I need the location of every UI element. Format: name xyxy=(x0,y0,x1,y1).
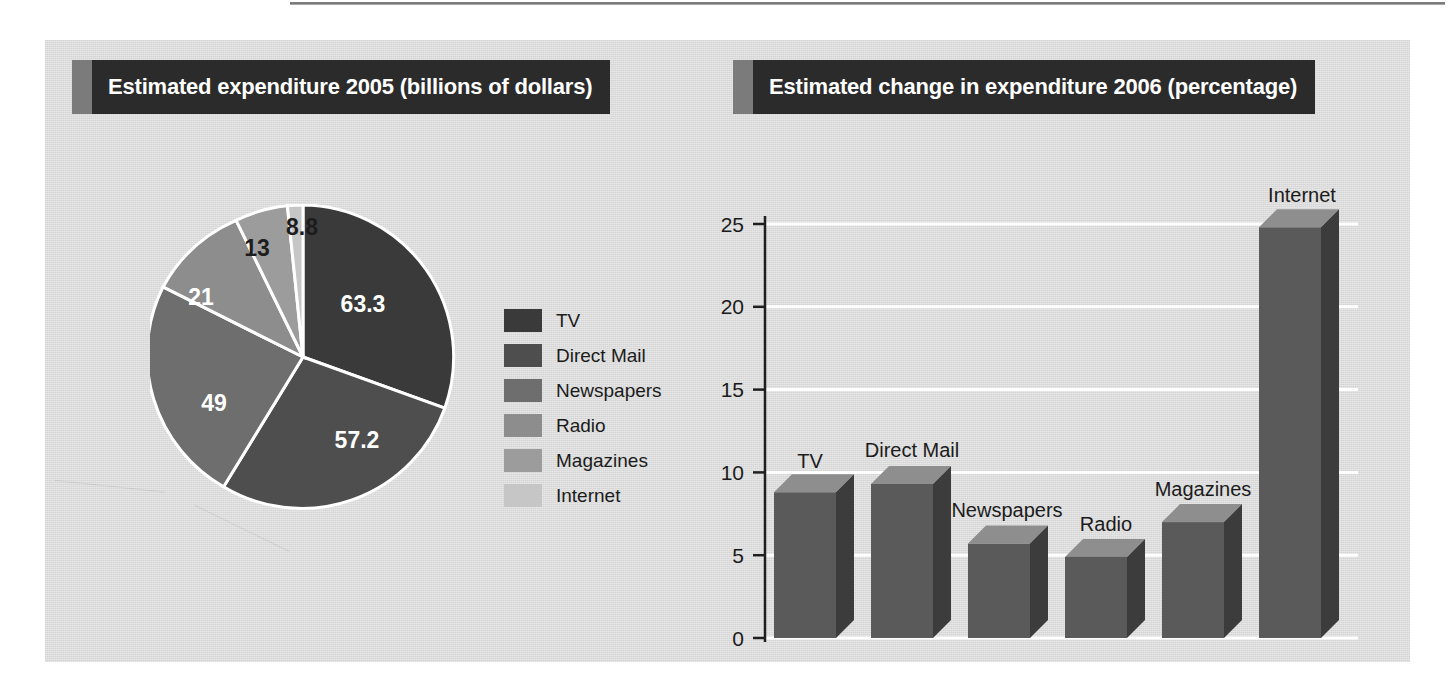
bar-newspapers-side xyxy=(1030,526,1048,638)
pie-chart-title: Estimated expenditure 2005 (billions of … xyxy=(108,74,592,100)
bar-direct-mail-front xyxy=(871,484,933,638)
legend-swatch-newspapers xyxy=(504,379,542,402)
paper-scratch-mark xyxy=(55,480,165,492)
legend-swatch-magazines xyxy=(504,449,542,472)
paper-scratch-mark-2 xyxy=(195,505,290,552)
pie-banner-tab xyxy=(72,60,92,114)
bar-tv[interactable]: TV xyxy=(774,450,854,638)
legend-label-direct-mail: Direct Mail xyxy=(556,345,646,367)
bar-magazines[interactable]: Magazines xyxy=(1155,478,1252,638)
pie-banner-body: Estimated expenditure 2005 (billions of … xyxy=(92,60,610,114)
pie-value-internet: 8.8 xyxy=(286,214,318,241)
top-divider-rule xyxy=(290,2,1445,5)
bar-label-magazines: Magazines xyxy=(1155,478,1252,500)
legend-swatch-internet xyxy=(504,484,542,507)
bar-label-radio: Radio xyxy=(1080,513,1132,535)
bar-internet-side xyxy=(1321,209,1339,638)
pie-value-direct-mail: 57.2 xyxy=(335,427,380,454)
legend-item-magazines[interactable]: Magazines xyxy=(504,443,704,478)
bar-label-internet: Internet xyxy=(1268,184,1336,206)
y-tick-label-0: 0 xyxy=(732,627,744,650)
y-tick-label-15: 15 xyxy=(721,378,744,401)
bar-label-direct-mail: Direct Mail xyxy=(865,439,959,461)
bar-banner-body: Estimated change in expenditure 2006 (pe… xyxy=(753,60,1315,114)
bar-direct-mail[interactable]: Direct Mail xyxy=(865,439,959,638)
legend-label-radio: Radio xyxy=(556,415,606,437)
bar-magazines-front xyxy=(1162,522,1224,638)
bar-radio-front xyxy=(1065,557,1127,638)
y-tick-label-10: 10 xyxy=(721,461,744,484)
legend-label-newspapers: Newspapers xyxy=(556,380,662,402)
bar-tv-front xyxy=(774,492,836,638)
legend-swatch-direct-mail xyxy=(504,344,542,367)
bar-banner-tab xyxy=(733,60,753,114)
pie-value-tv: 63.3 xyxy=(341,291,386,318)
bar-radio[interactable]: Radio xyxy=(1065,513,1145,638)
legend-swatch-tv xyxy=(504,309,542,332)
bar-chart: 0 5 10 15 20 25 TV Direct Mail xyxy=(690,180,1390,660)
legend-label-tv: TV xyxy=(556,310,580,332)
pie-chart: 63.3 57.2 49 21 13 8.8 xyxy=(150,204,456,510)
pie-chart-legend: TV Direct Mail Newspapers Radio Magazine… xyxy=(504,303,704,513)
legend-item-internet[interactable]: Internet xyxy=(504,478,704,513)
pie-value-newspapers: 49 xyxy=(201,390,227,417)
bar-chart-svg: 0 5 10 15 20 25 TV Direct Mail xyxy=(690,180,1390,660)
bar-newspapers-front xyxy=(968,544,1030,638)
pie-chart-banner: Estimated expenditure 2005 (billions of … xyxy=(72,60,610,114)
y-tick-label-25: 25 xyxy=(721,213,744,236)
pie-value-radio: 21 xyxy=(188,284,214,311)
bar-internet-front xyxy=(1259,227,1321,638)
pie-chart-svg xyxy=(150,204,456,510)
figure-root: Estimated expenditure 2005 (billions of … xyxy=(0,0,1450,700)
legend-swatch-radio xyxy=(504,414,542,437)
bar-magazines-side xyxy=(1224,504,1242,638)
y-tick-label-5: 5 xyxy=(732,544,744,567)
bar-label-tv: TV xyxy=(797,450,823,472)
bar-tv-side xyxy=(836,474,854,638)
legend-item-newspapers[interactable]: Newspapers xyxy=(504,373,704,408)
bar-label-newspapers: Newspapers xyxy=(951,499,1062,521)
y-axis xyxy=(753,216,765,642)
bar-internet[interactable]: Internet xyxy=(1259,184,1339,638)
legend-label-internet: Internet xyxy=(556,485,620,507)
bar-direct-mail-side xyxy=(933,466,951,638)
legend-item-tv[interactable]: TV xyxy=(504,303,704,338)
y-tick-labels: 0 5 10 15 20 25 xyxy=(721,213,744,650)
pie-value-magazines: 13 xyxy=(244,235,270,262)
bar-newspapers[interactable]: Newspapers xyxy=(951,499,1062,638)
legend-item-radio[interactable]: Radio xyxy=(504,408,704,443)
bar-chart-title: Estimated change in expenditure 2006 (pe… xyxy=(769,74,1297,100)
y-tick-label-20: 20 xyxy=(721,295,744,318)
legend-label-magazines: Magazines xyxy=(556,450,648,472)
legend-item-direct-mail[interactable]: Direct Mail xyxy=(504,338,704,373)
bar-chart-banner: Estimated change in expenditure 2006 (pe… xyxy=(733,60,1315,114)
pie-slices xyxy=(150,205,454,508)
